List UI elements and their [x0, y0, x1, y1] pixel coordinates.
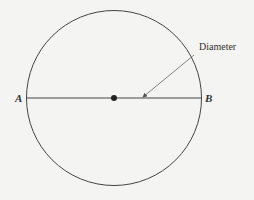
point-label-a: A — [14, 92, 22, 104]
center-point — [111, 95, 117, 101]
point-label-b: B — [204, 92, 212, 104]
circle-diagram: A B Diameter — [0, 0, 254, 200]
annotation-arrow — [143, 55, 194, 97]
diameter-label: Diameter — [199, 41, 237, 52]
